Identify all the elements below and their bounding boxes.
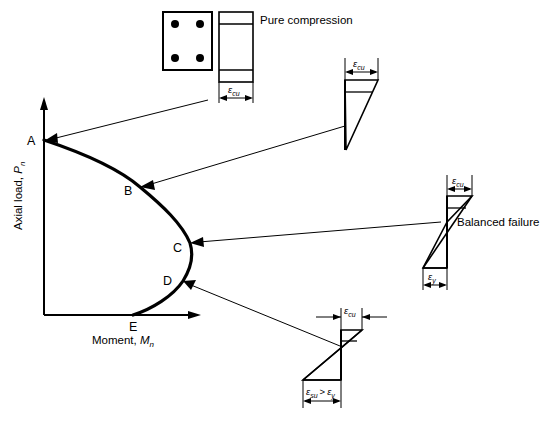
- column-cross-section: [163, 12, 212, 70]
- leader-line-c: [199, 222, 441, 242]
- leader-lines-group: [44, 100, 441, 346]
- y-axis-label: Axial load, Pn: [12, 161, 27, 230]
- tension-bottom-dim-arrow-right: [333, 398, 341, 404]
- pure-compression-strain-diagram: εcu: [219, 12, 253, 103]
- svg-text:Axial load, Pn: Axial load, Pn: [12, 161, 27, 230]
- y-axis-label-text: Axial load,: [12, 174, 24, 230]
- balanced-bottom-dim-label: εy: [428, 271, 436, 285]
- axes-group: [40, 97, 201, 319]
- balanced-top-dim-arrow-left: [447, 186, 455, 192]
- rebar-top-left: [171, 20, 179, 28]
- point-label-a: A: [27, 134, 36, 148]
- relation-symbol: >: [320, 386, 326, 397]
- epsilon-sub-cu: cu: [456, 181, 464, 188]
- epsilon-sub-y: y: [330, 392, 335, 400]
- y-axis-label-sub: n: [18, 161, 27, 166]
- tension-bottom-dim-arrow-left: [303, 398, 311, 404]
- y-axis-arrowhead: [40, 97, 48, 110]
- epsilon-sub-cu: cu: [357, 64, 365, 71]
- point-label-e: E: [129, 320, 137, 334]
- x-axis-label-symbol: M: [140, 334, 150, 346]
- leader-line-b: [148, 126, 345, 185]
- leader-line-d: [191, 285, 340, 346]
- epsilon-sub-y: y: [431, 277, 436, 285]
- point-label-d: D: [163, 274, 172, 288]
- interaction-curve-group: [44, 140, 192, 315]
- balanced-top-dim-arrow-right: [464, 186, 472, 192]
- point-b-dim-label: εcu: [353, 58, 365, 71]
- point-label-b: B: [124, 184, 132, 198]
- tension-controlled-strain-diagram: εcu εsu>εy: [303, 305, 387, 408]
- rebar-bottom-right: [196, 54, 204, 62]
- leader-arrow-d: [183, 280, 196, 290]
- point-label-c: C: [173, 241, 182, 255]
- pure-compression-strain-block: [219, 12, 253, 82]
- pure-compression-dim-arrow-left: [219, 95, 227, 101]
- pure-compression-dim-arrow-right: [245, 95, 253, 101]
- pure-compression-dim-label: εcu: [228, 84, 240, 97]
- figure-canvas: Axial load, Pn Moment, Mn A B C D E: [0, 0, 543, 429]
- epsilon-sub-su: su: [310, 392, 318, 399]
- x-axis-label-sub: n: [150, 340, 155, 349]
- point-b-strain-diagram: εcu: [345, 58, 378, 150]
- interaction-curve: [44, 140, 192, 315]
- pure-compression-annotation: Pure compression: [260, 14, 353, 26]
- balanced-bottom-dim-arrow-right: [439, 282, 447, 288]
- cross-section-outline: [163, 12, 212, 70]
- tension-top-dim-arrow-right: [362, 314, 370, 320]
- x-axis-arrowhead: [188, 311, 201, 319]
- balanced-tension-wedge: [423, 222, 447, 268]
- svg-text:Moment, Mn: Moment, Mn: [92, 334, 155, 349]
- x-axis-label-text: Moment,: [92, 334, 140, 346]
- point-b-dim-arrow-right: [370, 69, 378, 75]
- tension-top-dim-label: εcu: [344, 305, 356, 318]
- tension-top-dim-arrow-left: [333, 314, 341, 320]
- balanced-top-dim-label: εcu: [452, 175, 464, 188]
- point-b-dim-arrow-left: [345, 69, 353, 75]
- balanced-failure-strain-diagram: εcu εy: [423, 175, 472, 290]
- point-b-strain-wedge: [345, 80, 378, 150]
- epsilon-sub-cu: cu: [232, 90, 240, 97]
- balanced-bottom-dim-arrow-left: [423, 282, 431, 288]
- balanced-failure-annotation: Balanced failure: [457, 216, 539, 228]
- rebar-top-right: [196, 20, 204, 28]
- rebar-bottom-left: [171, 54, 179, 62]
- leader-line-a: [52, 100, 208, 139]
- epsilon-sub-cu: cu: [348, 311, 356, 318]
- x-axis-label: Moment, Mn: [92, 334, 155, 349]
- interaction-diagram-figure: Axial load, Pn Moment, Mn A B C D E: [0, 0, 543, 429]
- tension-bottom-dim-label: εsu>εy: [306, 386, 335, 400]
